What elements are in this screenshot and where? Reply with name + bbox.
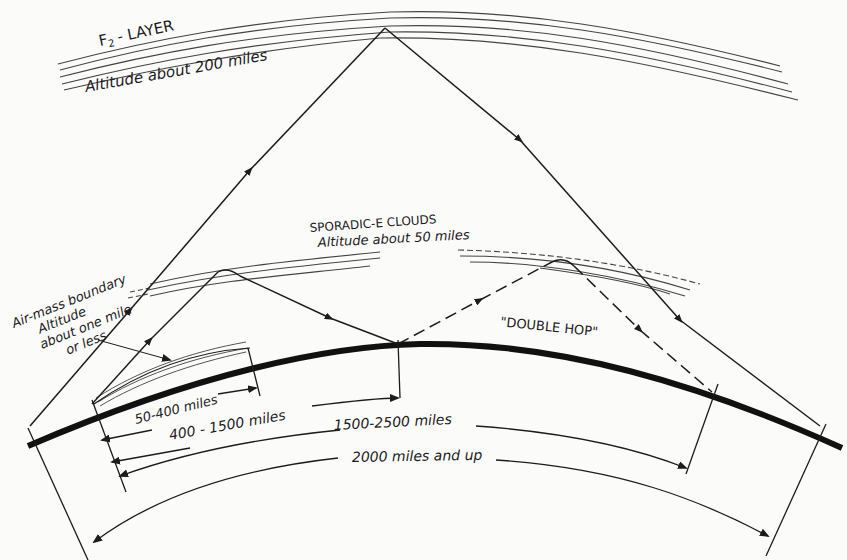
- earth-surface: [28, 344, 842, 448]
- range-label-1500-2500: 1500-2500 miles: [333, 411, 452, 433]
- sporadic-e-cloud-right: [458, 250, 700, 296]
- propagation-diagram: F2- LAYER Altitude about 200 miles SPORA…: [0, 0, 847, 560]
- f2-altitude-label: Altitude about 200 miles: [83, 46, 269, 96]
- air-mass-label: Air-mass boundary Altitude about one mil…: [9, 271, 146, 373]
- sporadic-e-cloud-left: [128, 252, 380, 298]
- f2-single-hop-path: [30, 28, 820, 426]
- range-label-2000-up: 2000 miles and up: [352, 447, 483, 465]
- double-hop-label: "DOUBLE HOP": [500, 314, 599, 339]
